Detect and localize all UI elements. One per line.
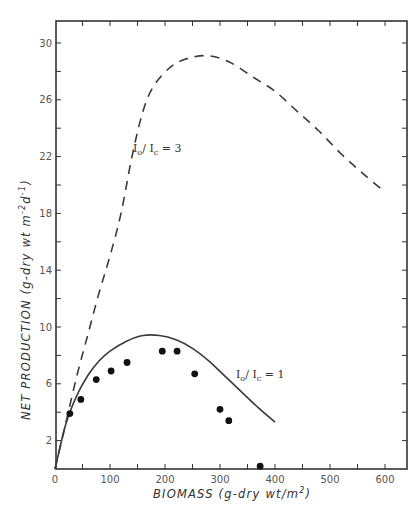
y-axis-label: NET PRODUCTION (g-dry wt m-2d-1): [18, 179, 33, 420]
x-tick-label: 0: [52, 474, 58, 485]
x-tick-label: 300: [210, 474, 229, 485]
curve-io-ic-1: [55, 335, 275, 469]
x-tick-label: 500: [320, 474, 339, 485]
x-tick-label: 400: [265, 474, 284, 485]
plot-frame: [56, 21, 407, 469]
x-tick-label: 100: [100, 474, 119, 485]
data-point: [108, 368, 115, 375]
y-tick-label: 18: [39, 208, 52, 219]
x-tick-label: 600: [375, 474, 394, 485]
data-point: [225, 417, 232, 424]
y-tick-label: 6: [46, 378, 52, 389]
annotation-io-ic-1: Io/ Ic = 1: [236, 368, 284, 383]
axes-box: [56, 21, 407, 469]
y-tick-label: 10: [39, 322, 52, 333]
data-point: [191, 370, 198, 377]
data-point: [124, 359, 131, 366]
data-point: [257, 463, 264, 470]
y-tick-label: 30: [39, 38, 52, 49]
data-point: [93, 376, 100, 383]
data-point: [159, 348, 166, 355]
data-point: [174, 348, 181, 355]
tick-labels: 010020030040050060026101418222630: [39, 38, 394, 486]
x-axis-label: BIOMASS (g-dry wt/m2): [153, 486, 311, 501]
axis-ticks: [56, 21, 407, 469]
y-tick-label: 26: [39, 94, 52, 105]
x-tick-label: 200: [155, 474, 174, 485]
y-tick-label: 14: [39, 265, 52, 276]
chart: 010020030040050060026101418222630 Io/ Ic…: [0, 0, 420, 519]
y-tick-label: 2: [46, 435, 52, 446]
data-point: [66, 410, 73, 417]
y-tick-label: 22: [39, 151, 52, 162]
data-point: [77, 396, 84, 403]
series-group: [55, 56, 385, 470]
data-point: [217, 406, 224, 413]
annotation-io-ic-3: Io/ Ic = 3: [133, 142, 181, 157]
